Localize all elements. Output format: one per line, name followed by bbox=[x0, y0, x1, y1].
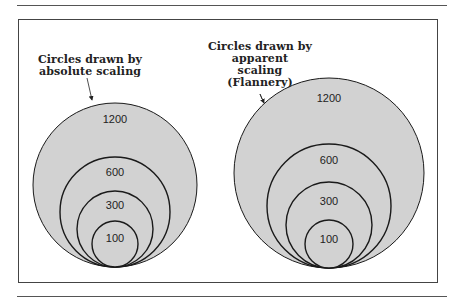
left-caption-line-2: absolute scaling bbox=[30, 66, 150, 78]
absolute-circle-label-1200: 1200 bbox=[103, 113, 127, 125]
apparent-circle-label-600: 600 bbox=[320, 154, 338, 166]
absolute-circle-label-100: 100 bbox=[106, 232, 124, 244]
left-caption: Circles drawn by absolute scaling bbox=[30, 54, 150, 78]
apparent-circle-label-100: 100 bbox=[320, 233, 338, 245]
left-caption-arrow bbox=[87, 78, 92, 100]
right-caption-arrow-2 bbox=[260, 94, 264, 103]
apparent-circle-label-1200: 1200 bbox=[317, 92, 341, 104]
apparent-scaling-circles: 1200600300100 bbox=[234, 78, 424, 268]
apparent-circle-label-300: 300 bbox=[320, 195, 338, 207]
absolute-circle-100 bbox=[92, 221, 138, 267]
absolute-circle-label-600: 600 bbox=[106, 166, 124, 178]
absolute-circle-label-300: 300 bbox=[106, 199, 124, 211]
right-caption-line-4: (Flannery) bbox=[200, 77, 320, 89]
right-caption: Circles drawn by apparent scaling (Flann… bbox=[200, 41, 320, 89]
absolute-scaling-circles: 1200600300100 bbox=[33, 103, 197, 267]
